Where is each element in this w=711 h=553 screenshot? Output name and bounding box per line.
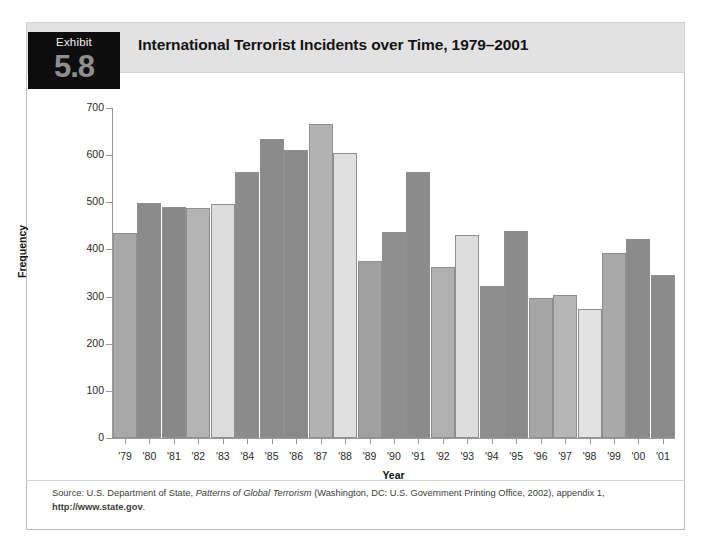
bar-column <box>406 172 430 438</box>
source-title-italic: Patterns of Global Terrorism <box>196 488 312 498</box>
x-tick-mark <box>296 439 297 444</box>
bar <box>186 208 210 438</box>
bar-column <box>651 275 675 438</box>
bar <box>578 309 602 438</box>
source-url: http://www.state.gov <box>52 502 143 512</box>
y-tick-mark <box>106 438 112 439</box>
x-tick-mark <box>663 439 664 444</box>
bar-column <box>382 232 406 438</box>
y-tick-mark <box>106 155 112 156</box>
exhibit-title: International Terrorist Incidents over T… <box>138 36 528 54</box>
bar-column <box>529 298 553 438</box>
bar-column <box>626 239 650 438</box>
x-tick-mark <box>638 439 639 444</box>
y-tick-label: 0 <box>64 431 104 443</box>
bar <box>504 231 528 438</box>
bar-series: '79'80'81'82'83'84'85'86'87'88'89'90'91'… <box>113 73 675 480</box>
bar <box>309 124 333 438</box>
source-middle: (Washington, DC: U.S. Government Printin… <box>312 488 605 498</box>
y-tick-label: 500 <box>64 195 104 207</box>
bar-column <box>480 286 504 438</box>
exhibit-label: Exhibit <box>28 36 120 48</box>
bar <box>333 153 357 438</box>
bar-column <box>455 235 479 438</box>
x-tick-mark <box>125 439 126 444</box>
bar-column <box>235 172 259 438</box>
bar-column <box>431 267 455 438</box>
bar <box>137 203 161 438</box>
x-tick-mark <box>247 439 248 444</box>
x-tick-mark <box>516 439 517 444</box>
x-tick-mark <box>321 439 322 444</box>
bar <box>480 286 504 438</box>
bar <box>553 295 577 438</box>
bar-column <box>162 207 186 438</box>
x-tick-mark <box>541 439 542 444</box>
y-tick-label: 100 <box>64 384 104 396</box>
bar-column <box>358 261 382 438</box>
bar-column <box>333 153 357 438</box>
bar-column <box>578 309 602 438</box>
bar <box>113 233 137 438</box>
y-tick-mark <box>106 202 112 203</box>
bar <box>260 139 284 438</box>
bar <box>211 204 235 438</box>
bar-column <box>553 295 577 438</box>
y-tick-label: 600 <box>64 148 104 160</box>
x-tick-mark <box>149 439 150 444</box>
y-tick-mark <box>106 344 112 345</box>
x-tick-mark <box>345 439 346 444</box>
bar <box>358 261 382 438</box>
x-tick-mark <box>394 439 395 444</box>
bar <box>455 235 479 438</box>
bar-column <box>309 124 333 438</box>
y-tick-mark <box>106 249 112 250</box>
y-tick-label: 300 <box>64 290 104 302</box>
bar-column <box>602 253 626 438</box>
bar <box>382 232 406 438</box>
y-tick-label: 400 <box>64 242 104 254</box>
exhibit-page: International Terrorist Incidents over T… <box>0 0 711 553</box>
bar <box>529 298 553 438</box>
bar <box>431 267 455 438</box>
bar-column <box>284 150 308 439</box>
y-tick-label: 200 <box>64 337 104 349</box>
x-tick-mark <box>590 439 591 444</box>
bar <box>284 150 308 439</box>
x-tick-label: '01 <box>648 450 678 462</box>
y-tick-label: 700 <box>64 101 104 113</box>
bar-column <box>186 208 210 438</box>
x-tick-mark <box>223 439 224 444</box>
bar <box>626 239 650 438</box>
x-tick-mark <box>418 439 419 444</box>
source-divider <box>26 480 685 481</box>
x-tick-mark <box>370 439 371 444</box>
bar-column <box>260 139 284 438</box>
bar-column <box>113 233 137 438</box>
bar <box>235 172 259 438</box>
chart-plot-area: 0100200300400500600700 Frequency '79'80'… <box>26 73 685 480</box>
x-tick-mark <box>198 439 199 444</box>
y-axis-tick-labels: 0100200300400500600700 <box>56 73 104 480</box>
x-tick-mark <box>614 439 615 444</box>
y-tick-mark <box>106 391 112 392</box>
bar-column <box>137 203 161 438</box>
x-tick-mark <box>565 439 566 444</box>
x-tick-mark <box>272 439 273 444</box>
y-tick-mark <box>106 297 112 298</box>
x-tick-mark <box>174 439 175 444</box>
source-suffix: . <box>143 502 146 512</box>
bar-column <box>504 231 528 438</box>
x-tick-mark <box>467 439 468 444</box>
y-tick-mark <box>106 108 112 109</box>
y-axis-title: Frequency <box>16 225 28 278</box>
bar <box>602 253 626 438</box>
source-note: Source: U.S. Department of State, Patter… <box>52 487 660 514</box>
source-prefix: Source: U.S. Department of State, <box>52 488 196 498</box>
bar <box>406 172 430 438</box>
x-tick-mark <box>443 439 444 444</box>
bar <box>651 275 675 438</box>
bar-column <box>211 204 235 438</box>
x-tick-mark <box>492 439 493 444</box>
bar <box>162 207 186 438</box>
